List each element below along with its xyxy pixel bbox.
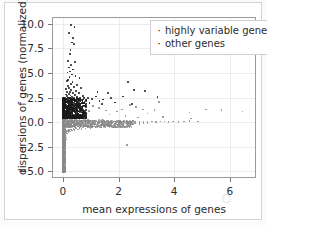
data-point (64, 134, 66, 136)
data-point (67, 125, 69, 127)
data-point (65, 135, 67, 137)
data-point (79, 123, 81, 125)
data-point (127, 126, 129, 128)
data-point (86, 124, 88, 126)
data-point (93, 123, 95, 125)
data-point (75, 125, 77, 127)
data-point (70, 64, 72, 66)
data-point (68, 107, 70, 109)
data-point (81, 115, 83, 117)
data-point (76, 104, 78, 106)
data-point (81, 124, 83, 126)
data-point (85, 99, 87, 101)
data-point (77, 118, 79, 120)
data-point (81, 112, 83, 114)
data-point (76, 107, 78, 109)
x-tick-label: 0 (48, 186, 78, 197)
data-point (65, 158, 67, 160)
data-point (64, 126, 66, 128)
legend-label: other genes (165, 39, 225, 49)
data-point (68, 123, 70, 125)
data-point (70, 98, 72, 100)
data-point (64, 131, 66, 133)
data-point (72, 98, 74, 100)
legend-item-other-genes: · other genes (155, 37, 267, 50)
data-point (74, 115, 76, 117)
data-point (73, 86, 75, 88)
data-point (64, 125, 66, 127)
data-point (69, 106, 71, 108)
data-point (82, 108, 84, 110)
data-point (64, 162, 66, 164)
data-point (137, 117, 139, 119)
data-point (65, 135, 67, 137)
data-point (82, 101, 84, 103)
data-point (91, 124, 93, 126)
data-point (64, 129, 66, 131)
data-point (64, 110, 66, 112)
data-point (64, 149, 66, 151)
data-point (67, 85, 69, 87)
data-point (71, 124, 73, 126)
data-point (87, 125, 89, 127)
data-point (67, 116, 69, 118)
data-point (80, 103, 82, 105)
data-point (126, 126, 128, 128)
data-point (70, 112, 72, 114)
data-point (72, 115, 74, 117)
data-point (74, 125, 76, 127)
data-point (66, 107, 68, 109)
data-point (87, 124, 89, 126)
data-point (67, 123, 69, 125)
data-point (75, 117, 77, 119)
data-point (73, 110, 75, 112)
data-point (100, 127, 102, 129)
data-point (65, 138, 67, 140)
data-point (78, 106, 80, 108)
data-point (74, 111, 76, 113)
data-point (79, 118, 81, 120)
data-point (68, 111, 70, 113)
data-point (69, 53, 71, 55)
data-point (64, 124, 66, 126)
data-point (64, 124, 66, 126)
data-point (64, 151, 66, 153)
data-point (70, 105, 72, 107)
data-point (69, 125, 71, 127)
data-point (89, 102, 91, 104)
data-point (68, 100, 70, 102)
data-point (65, 151, 67, 153)
data-point (81, 117, 83, 119)
data-point (124, 120, 126, 122)
data-point (106, 124, 108, 126)
data-point (76, 104, 78, 106)
data-point (82, 99, 84, 101)
data-point (68, 126, 70, 128)
data-point (96, 126, 98, 128)
data-point (64, 151, 66, 153)
data-point (69, 106, 71, 108)
data-point (92, 120, 94, 122)
data-point (107, 125, 109, 127)
data-point (77, 102, 79, 104)
data-point (67, 119, 69, 121)
data-point (66, 114, 68, 116)
data-point (92, 126, 94, 128)
data-point (107, 92, 109, 94)
data-point (69, 118, 71, 120)
data-point (71, 116, 73, 118)
data-point (64, 111, 66, 113)
data-point (65, 116, 67, 118)
data-point (84, 112, 86, 114)
data-point (80, 110, 82, 112)
data-point (124, 126, 126, 128)
data-point (64, 161, 66, 163)
data-point (90, 124, 92, 126)
data-point (72, 92, 74, 94)
data-point (64, 134, 66, 136)
data-point (120, 125, 122, 127)
data-point (97, 91, 99, 93)
data-point (84, 111, 86, 113)
data-point (64, 115, 66, 117)
data-point (124, 126, 126, 128)
